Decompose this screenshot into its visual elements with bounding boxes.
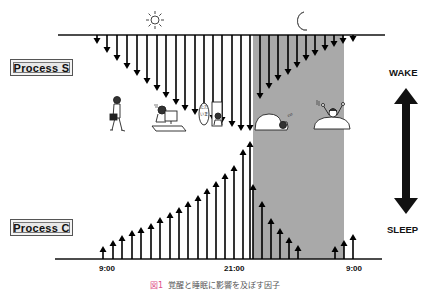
caption-figure-number: 図1 — [150, 281, 163, 290]
process-c-label: Process C — [10, 219, 73, 236]
process-s-down-arrow — [163, 35, 170, 98]
person-walking-illustration — [110, 97, 125, 132]
process-s-down-arrow — [144, 35, 151, 84]
svg-text:いま: いま — [200, 112, 208, 117]
process-c-up-arrow — [231, 165, 238, 259]
night-period-shading — [253, 35, 344, 259]
x-tick-label-end: 9:00 — [346, 264, 362, 273]
process-s-down-arrow — [350, 35, 357, 42]
x-tick-label-start: 9:00 — [99, 264, 115, 273]
process-c-up-arrow — [213, 181, 220, 259]
process-s-down-arrow — [114, 35, 121, 61]
process-c-up-arrow — [222, 173, 229, 259]
person-at-computer-illustration — [152, 105, 186, 131]
process-c-up-arrow — [129, 230, 136, 259]
process-c-up-arrow — [148, 223, 155, 259]
process-s-down-arrow — [238, 35, 245, 131]
wake-label: WAKE — [389, 67, 418, 78]
process-c-up-arrow — [157, 217, 164, 259]
process-s-down-arrow — [154, 35, 161, 91]
process-c-up-arrow — [240, 149, 247, 259]
process-s-label: Process S — [10, 59, 73, 76]
process-s-down-arrow — [134, 35, 141, 76]
process-c-up-arrow — [195, 195, 202, 259]
process-s-down-arrow — [229, 35, 236, 127]
sleep-label: SLEEP — [387, 224, 418, 235]
process-c-up-arrow — [176, 207, 183, 259]
process-s-down-arrow — [124, 35, 131, 69]
speech-bubble-text: ただ — [200, 104, 208, 110]
process-c-up-arrow — [100, 246, 107, 259]
process-s-down-arrow — [94, 35, 101, 44]
moon-icon — [297, 12, 307, 30]
wake-sleep-double-arrow — [394, 88, 418, 214]
process-s-down-arrow — [192, 35, 199, 115]
process-c-up-arrow — [138, 227, 145, 259]
process-c-up-arrow — [110, 240, 117, 259]
process-c-up-arrow — [350, 234, 357, 259]
process-c-up-arrow — [167, 212, 174, 259]
sun-icon — [146, 11, 164, 29]
x-tick-label-middle: 21:00 — [224, 264, 244, 273]
process-s-down-arrow — [173, 35, 180, 105]
tadaima-door-illustration: ただ いま — [199, 102, 222, 126]
process-s-down-arrow — [247, 35, 254, 131]
process-s-down-arrow — [104, 35, 111, 53]
process-c-up-arrow — [185, 201, 192, 259]
process-s-down-arrow — [182, 35, 189, 111]
caption-text: 覚醒と睡眠に影響を及ぼす因子 — [168, 281, 280, 290]
process-c-up-arrow — [119, 235, 126, 259]
process-c-up-arrow — [204, 188, 211, 259]
figure-caption: 図1覚醒と睡眠に影響を及ぼす因子 — [150, 279, 280, 290]
